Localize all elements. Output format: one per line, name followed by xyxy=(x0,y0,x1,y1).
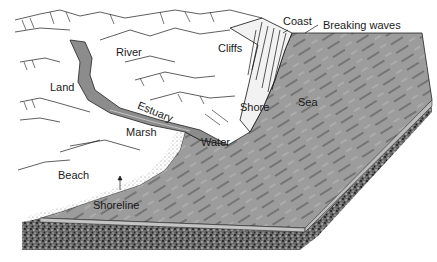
label-coast: Coast xyxy=(283,16,312,27)
label-river: River xyxy=(116,47,142,58)
label-cliffs: Cliffs xyxy=(218,43,242,54)
label-beach: Beach xyxy=(58,170,89,181)
label-water: Water xyxy=(201,137,230,148)
label-sea: Sea xyxy=(298,97,318,108)
diagram-artwork xyxy=(0,0,437,262)
coastal-diagram: Coast Breaking waves River Cliffs Land E… xyxy=(0,0,437,262)
label-land: Land xyxy=(50,82,74,93)
label-shore: Shore xyxy=(240,102,269,113)
label-marsh: Marsh xyxy=(126,127,157,138)
label-shoreline: Shoreline xyxy=(93,200,139,211)
label-breaking-waves: Breaking waves xyxy=(323,20,401,31)
